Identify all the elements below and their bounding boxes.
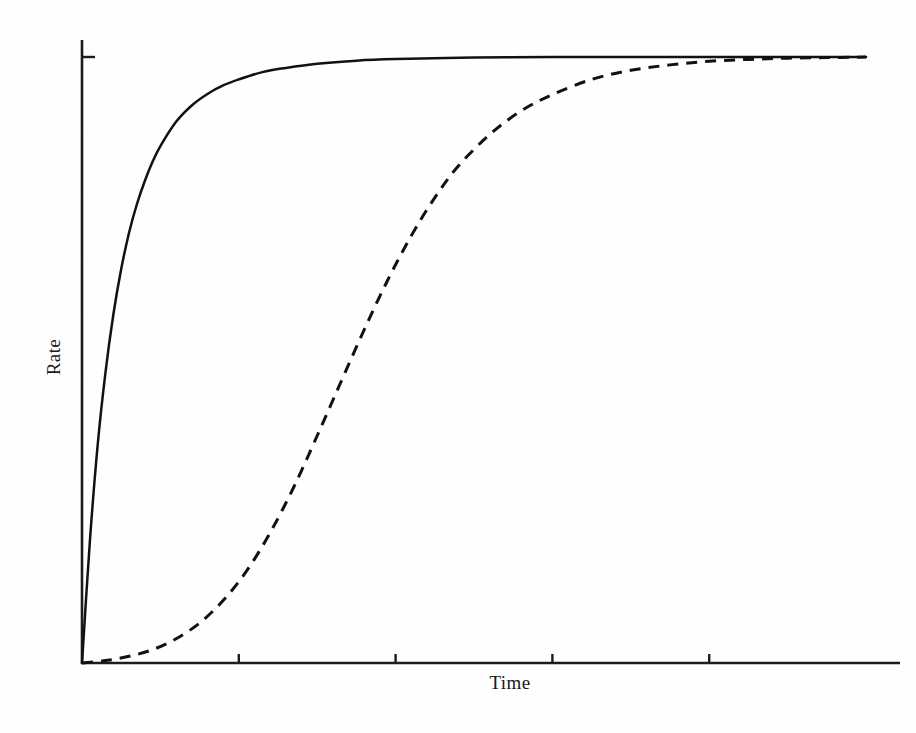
series-line-hyperbolic-rise xyxy=(82,57,866,663)
figure-container: Rate Time xyxy=(0,0,916,733)
axes-group xyxy=(81,40,900,664)
x-axis-ticks xyxy=(239,654,709,662)
y-axis-label: Rate xyxy=(43,327,65,387)
series-group xyxy=(82,57,866,663)
series-line-sigmoidal-rise xyxy=(82,57,866,663)
rate-vs-time-plot xyxy=(0,0,916,733)
x-axis-label: Time xyxy=(455,672,565,694)
